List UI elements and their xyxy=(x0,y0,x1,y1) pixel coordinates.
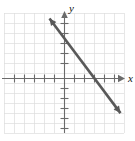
y-axis-label: y xyxy=(68,2,74,14)
y-axis-arrow-up-icon xyxy=(61,11,68,18)
linear-function-graph xyxy=(50,19,121,114)
coordinate-plane-graph: y x xyxy=(0,0,135,141)
axis-lines xyxy=(2,18,118,133)
x-axis-arrow-right-icon xyxy=(118,75,125,83)
graph-figure: y x xyxy=(0,0,135,141)
linear-function-line xyxy=(50,19,121,114)
x-axis-label: x xyxy=(127,72,133,84)
